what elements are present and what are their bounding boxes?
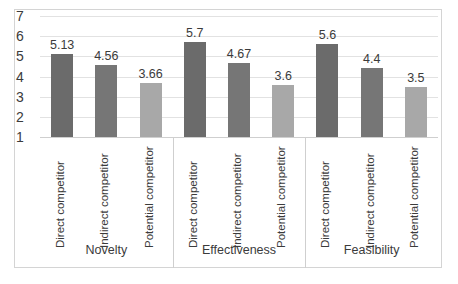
bar [361,68,383,137]
gridline [40,16,438,17]
bar-value-label: 3.66 [121,68,181,81]
bar-value-label: 5.7 [165,27,225,40]
y-axis-tick-label: 1 [16,130,42,144]
series-label: Potential competitor [276,142,288,248]
y-axis-tick-label: 5 [16,49,42,63]
bar [316,44,338,137]
bar-value-label: 4.4 [342,53,402,66]
plot-area: 5.134.563.665.74.673.65.64.43.5 [40,16,438,137]
y-axis-tick-label: 7 [16,9,42,23]
series-label: Direct competitor [320,142,332,248]
series-label: Direct competitor [188,142,200,248]
bar [405,87,427,137]
y-axis-tick-label: 3 [16,90,42,104]
bar-chart-figure: 7654321 5.134.563.665.74.673.65.64.43.5 … [0,0,458,284]
bar-value-label: 3.6 [253,70,313,83]
bar-value-label: 4.56 [76,50,136,63]
series-label: Indirect competitor [232,142,244,248]
category-label-band: NoveltyDirect competitorIndirect competi… [40,137,438,267]
bar [95,65,117,137]
series-label: Indirect competitor [99,142,111,248]
series-label: Indirect competitor [365,142,377,248]
bar [140,83,162,137]
y-axis: 7654321 [16,10,42,143]
series-label: Direct competitor [55,142,67,248]
y-axis-tick-label: 2 [16,110,42,124]
series-label: Potential competitor [409,142,421,248]
group-cell-novelty: NoveltyDirect competitorIndirect competi… [40,138,173,268]
bar-value-label: 5.6 [297,29,357,42]
series-label: Potential competitor [144,142,156,248]
group-cell-feasibility: FeasibilityDirect competitorIndirect com… [305,138,438,268]
gridline [40,36,438,37]
group-cell-effectiveness: EffectivenessDirect competitorIndirect c… [173,138,306,268]
bar [272,85,294,137]
bar [228,63,250,137]
bar-value-label: 4.67 [209,48,269,61]
bar-value-label: 3.5 [386,72,446,85]
y-axis-tick-label: 4 [16,70,42,84]
bar [51,54,73,137]
bar [184,42,206,137]
